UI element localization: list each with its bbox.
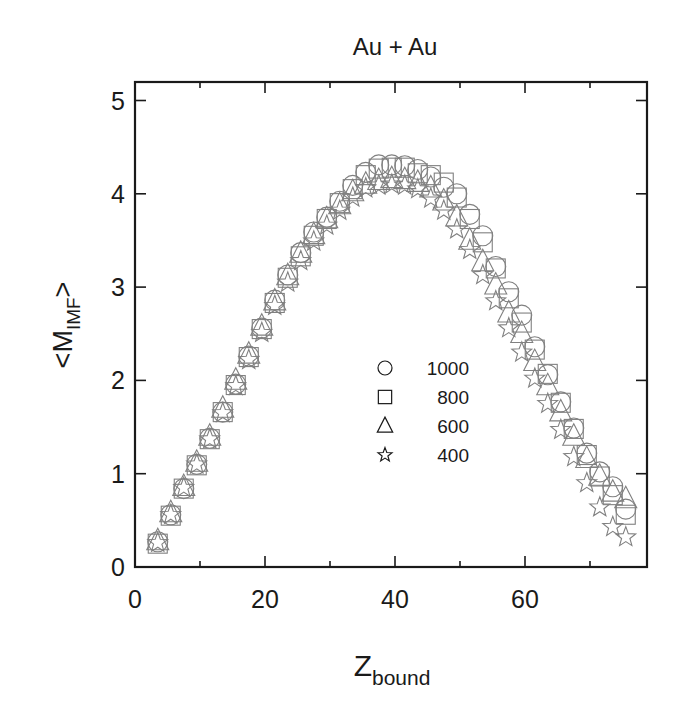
x-tick-label: 0 (128, 585, 142, 613)
series-400 (148, 174, 636, 551)
legend-item-400: 400 (378, 445, 469, 466)
svg-text:<MIMF>: <MIMF> (48, 282, 84, 369)
circle-marker (378, 361, 392, 375)
series-600 (147, 166, 637, 549)
y-tick-label: 3 (111, 273, 125, 301)
x-axis-title: Zbound (354, 649, 431, 689)
star-marker (278, 272, 298, 291)
legend-item-600: 600 (377, 416, 469, 437)
legend-item-1000: 1000 (378, 358, 469, 379)
legend-label: 400 (437, 445, 469, 466)
legend-label: 800 (437, 387, 469, 408)
y-tick-label: 2 (111, 366, 125, 394)
y-tick-label: 0 (111, 553, 125, 581)
x-tick-label: 40 (381, 585, 409, 613)
y-tick-label: 4 (111, 180, 125, 208)
triangle-marker (602, 480, 624, 501)
triangle-marker (238, 342, 260, 363)
star-marker (603, 516, 623, 535)
data-points (147, 155, 637, 553)
star-marker (486, 291, 506, 310)
square-marker (577, 446, 596, 465)
star-marker (330, 200, 350, 219)
legend-item-800: 800 (378, 387, 469, 408)
svg-text:Zbound: Zbound (354, 649, 431, 689)
legend-label: 600 (437, 416, 469, 437)
series-1000 (148, 155, 636, 552)
legend-label: 1000 (427, 358, 469, 379)
star-marker (378, 448, 392, 461)
chart-canvas: 0204060012345 1000800600400 Zbound <MIMF… (0, 0, 681, 709)
star-marker (590, 497, 610, 516)
x-tick-label: 20 (251, 585, 279, 613)
y-axis-title: <MIMF> (48, 282, 84, 369)
triangle-marker (377, 417, 392, 432)
circle-marker (616, 499, 636, 519)
triangle-marker (472, 249, 494, 270)
y-tick-label: 1 (111, 460, 125, 488)
legend: 1000800600400 (377, 358, 469, 466)
square-marker (499, 289, 518, 308)
star-marker (265, 295, 285, 314)
y-tick-label: 5 (111, 87, 125, 115)
star-marker (564, 446, 584, 465)
star-marker (473, 265, 493, 284)
series-800 (148, 158, 635, 553)
triangle-marker (199, 424, 221, 445)
square-marker (378, 390, 391, 403)
x-tick-label: 60 (511, 585, 539, 613)
circle-marker (395, 156, 415, 176)
axis-tick-labels: 0204060012345 (111, 87, 539, 614)
star-marker (512, 342, 532, 361)
star-marker (239, 349, 259, 368)
star-marker (616, 527, 636, 546)
square-marker (148, 534, 167, 553)
star-marker (174, 477, 194, 496)
